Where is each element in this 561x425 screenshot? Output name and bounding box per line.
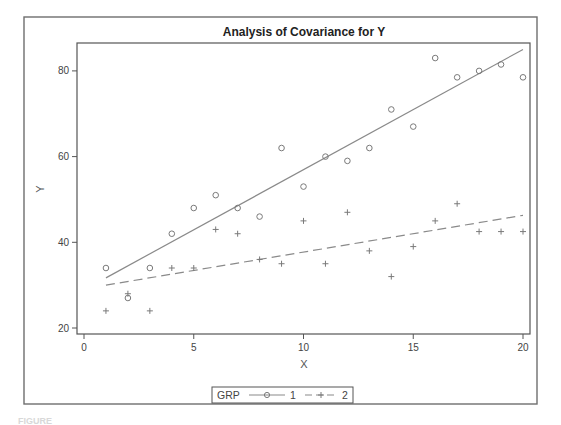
legend: GRP 1 2	[212, 387, 353, 403]
footer-caption: FIGURE	[18, 416, 52, 425]
chart: Analysis of Covariance for Y 20406080 05…	[0, 0, 561, 425]
x-tick-label: 5	[191, 342, 197, 353]
x-tick-label: 0	[81, 342, 87, 353]
y-axis-label: Y	[34, 185, 46, 193]
x-axis-label: X	[300, 358, 308, 370]
legend-title: GRP	[217, 389, 240, 401]
y-tick-label: 40	[58, 237, 70, 248]
x-tick-label: 10	[298, 342, 310, 353]
x-tick-label: 15	[408, 342, 420, 353]
legend-label-2: 2	[342, 389, 348, 401]
plot-area	[77, 43, 530, 334]
legend-label-1: 1	[290, 389, 296, 401]
x-tick-label: 20	[517, 342, 529, 353]
y-tick-label: 60	[58, 151, 70, 162]
y-tick-label: 80	[58, 65, 70, 76]
y-tick-label: 20	[58, 323, 70, 334]
chart-title: Analysis of Covariance for Y	[223, 25, 386, 39]
